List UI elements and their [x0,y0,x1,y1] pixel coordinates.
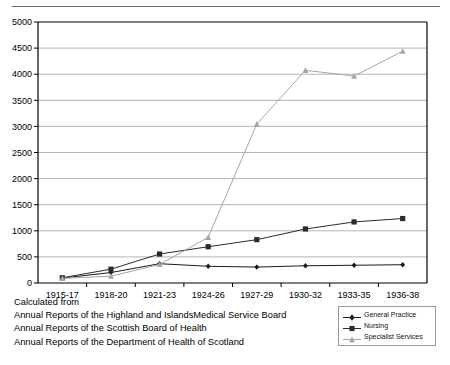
y-axis-tick-label: 2500 [12,148,32,158]
legend-item-general-practice[interactable]: General Practice [342,309,432,320]
y-axis-tick-label: 4500 [12,43,32,53]
x-axis-tick-label: 1933-35 [338,290,371,299]
line-chart: 0500100015002000250030003500400045005000… [0,14,450,299]
source-note: Calculated from Annual Reports of the Hi… [14,296,314,349]
series-nursing [60,216,406,280]
source-line-3: Annual Reports of the Scottish Board of … [14,322,314,335]
legend-item-specialist-services[interactable]: Specialist Services [342,331,432,342]
legend-marker-triangle-icon [342,331,362,342]
header-divider [12,6,440,7]
data-point-diamond [254,264,259,269]
data-point-triangle [205,234,211,240]
data-point-square [254,237,259,242]
y-axis-tick-label: 3500 [12,96,32,106]
data-point-diamond [400,262,405,267]
y-axis-tick-label: 3000 [12,122,32,132]
chart-legend: General Practice Nursing Specialist Serv… [338,306,436,346]
y-axis-tick-label: 4000 [12,69,32,79]
series-specialist-services [59,48,405,281]
y-axis-tick-label: 2000 [12,174,32,184]
source-line-4: Annual Reports of the Department of Heal… [14,336,314,349]
data-point-diamond [206,264,211,269]
legend-label-nursing: Nursing [362,320,388,331]
data-point-square [400,216,405,221]
data-point-square [303,226,308,231]
y-axis-tick-label: 0 [27,278,32,288]
data-point-square [157,251,162,256]
legend-marker-diamond-icon [342,309,362,320]
legend-marker-square-icon [342,320,362,331]
data-point-square [351,219,356,224]
y-axis-tick-label: 1000 [12,226,32,236]
y-axis-tick-label: 5000 [12,17,32,27]
data-point-square [108,267,113,272]
legend-item-nursing[interactable]: Nursing [342,320,432,331]
data-point-square [206,244,211,249]
y-axis-tick-labels: 0500100015002000250030003500400045005000 [12,17,32,288]
x-axis-tick-label: 1936-38 [386,290,419,299]
source-line-2: Annual Reports of the Highland and Islan… [14,309,314,322]
series-layer [59,48,405,281]
data-point-diamond [303,263,308,268]
legend-label-general-practice: General Practice [362,309,416,320]
y-axis-tick-label: 500 [17,252,32,262]
chart-container: 0500100015002000250030003500400045005000… [0,14,450,299]
legend-label-specialist-services: Specialist Services [362,331,423,342]
data-point-diamond [352,263,357,268]
y-axis-tick-label: 1500 [12,200,32,210]
source-line-1: Calculated from [14,296,314,309]
data-point-triangle [400,48,406,54]
